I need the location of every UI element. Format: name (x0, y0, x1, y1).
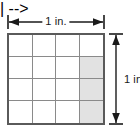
grid-cell (33, 57, 57, 79)
top-dimension-line: 1 in. (7, 14, 105, 30)
right-dimension-label: 1 in. (124, 71, 140, 88)
grid-cell (9, 101, 33, 123)
unit-square-grid-figure: | --> 1 in. (0, 0, 140, 137)
right-dimension-line: 1 in. (108, 33, 124, 125)
grid-cell-shaded (80, 57, 104, 79)
grid-cell (9, 57, 33, 79)
grid-cell (33, 101, 57, 123)
grid-cell (56, 101, 80, 123)
grid-cell (56, 57, 80, 79)
grid-cell (56, 35, 80, 57)
grid-cell-shaded (80, 79, 104, 101)
top-dimension-label: 1 in. (42, 14, 69, 28)
grid-cell (80, 35, 104, 57)
grid (7, 33, 105, 125)
grid-cell-shaded (80, 101, 104, 123)
arrow-down-icon (112, 113, 120, 123)
grid-cell (9, 79, 33, 101)
grid-cell (33, 35, 57, 57)
grid-cell (9, 35, 33, 57)
arrow-right-icon (93, 18, 103, 26)
right-dimension-arrow-graphic (108, 33, 124, 125)
grid-cell (33, 79, 57, 101)
arrow-up-icon (112, 35, 120, 45)
grid-cell (56, 79, 80, 101)
arrow-left-icon (9, 18, 19, 26)
